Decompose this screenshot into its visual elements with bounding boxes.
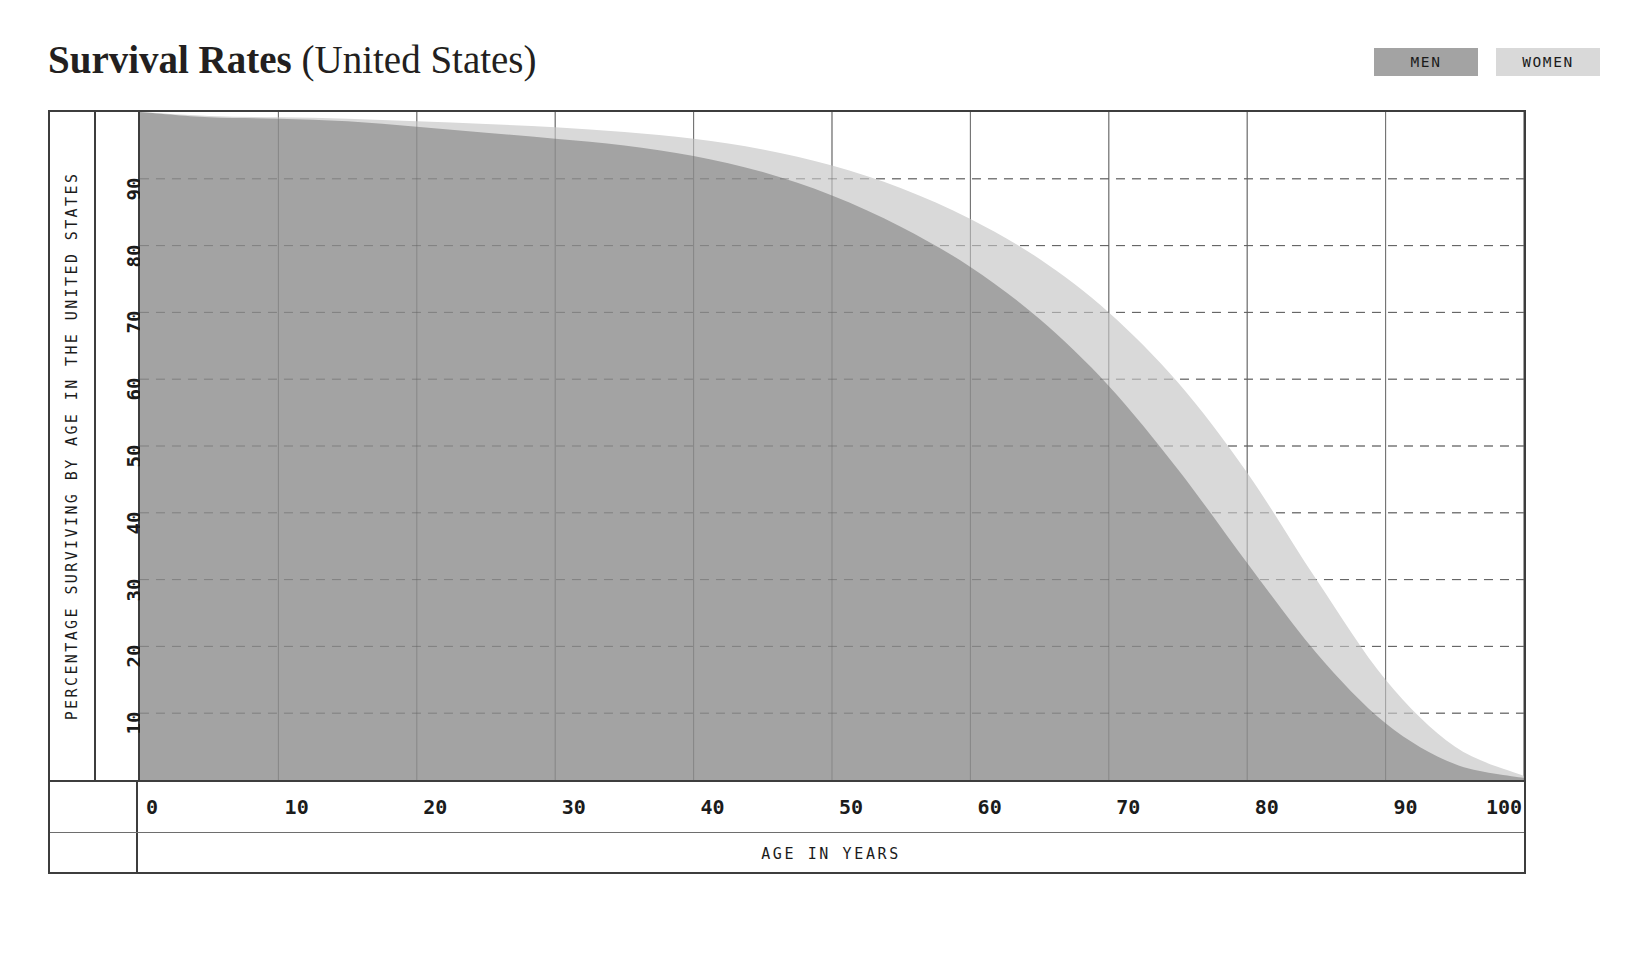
x-axis-tick-40: 40 [700, 795, 724, 819]
legend-label-women: WOMEN [1522, 54, 1574, 70]
x-axis-title: AGE IN YEARS [761, 845, 901, 863]
x-axis-tick-60: 60 [978, 795, 1002, 819]
x-axis-tick-10: 10 [285, 795, 309, 819]
legend-item-women[interactable]: WOMEN [1496, 48, 1600, 76]
chart-page: Survival Rates (United States) MEN WOMEN… [0, 0, 1642, 970]
x-axis-tick-20: 20 [423, 795, 447, 819]
x-axis-tick-labels: 0102030405060708090100 [138, 782, 1524, 832]
header: Survival Rates (United States) MEN WOMEN [0, 0, 1642, 108]
y-axis-title-column: PERCENTAGE SURVIVING BY AGE IN THE UNITE… [50, 112, 96, 780]
x-axis-tick-50: 50 [839, 795, 863, 819]
x-axis-title-area: AGE IN YEARS [138, 833, 1524, 874]
page-title: Survival Rates (United States) [48, 38, 537, 82]
y-axis-title: PERCENTAGE SURVIVING BY AGE IN THE UNITE… [63, 172, 81, 721]
y-axis-tick-column: 102030405060708090 [96, 112, 140, 780]
legend: MEN WOMEN [1374, 48, 1600, 76]
x-axis-title-row: AGE IN YEARS [50, 832, 1524, 874]
x-axis-tick-spacer [50, 782, 138, 832]
legend-item-men[interactable]: MEN [1374, 48, 1478, 76]
x-axis-tick-100: 100 [1486, 795, 1522, 819]
x-axis-tick-80: 80 [1255, 795, 1279, 819]
x-axis-tick-90: 90 [1393, 795, 1417, 819]
plot-area[interactable] [140, 112, 1524, 780]
chart-body: PERCENTAGE SURVIVING BY AGE IN THE UNITE… [50, 112, 1524, 780]
page-title-sub: (United States) [292, 38, 537, 81]
legend-label-men: MEN [1411, 54, 1442, 70]
plot-svg [140, 112, 1524, 780]
chart-frame: PERCENTAGE SURVIVING BY AGE IN THE UNITE… [48, 110, 1526, 874]
page-title-main: Survival Rates [48, 38, 292, 81]
x-axis-tick-row: 0102030405060708090100 [50, 780, 1524, 832]
x-axis-tick-0: 0 [146, 795, 158, 819]
x-axis-title-spacer [50, 833, 138, 874]
x-axis-tick-30: 30 [562, 795, 586, 819]
x-axis-tick-70: 70 [1116, 795, 1140, 819]
